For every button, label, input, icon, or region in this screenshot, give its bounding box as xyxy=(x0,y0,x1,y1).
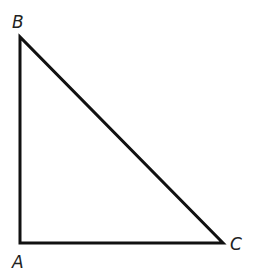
vertex-label-b: B xyxy=(12,12,24,32)
vertex-label-c: C xyxy=(230,234,242,254)
vertex-label-a: A xyxy=(11,252,24,272)
triangle-abc xyxy=(20,37,223,243)
triangle-diagram: A B C xyxy=(0,0,257,276)
